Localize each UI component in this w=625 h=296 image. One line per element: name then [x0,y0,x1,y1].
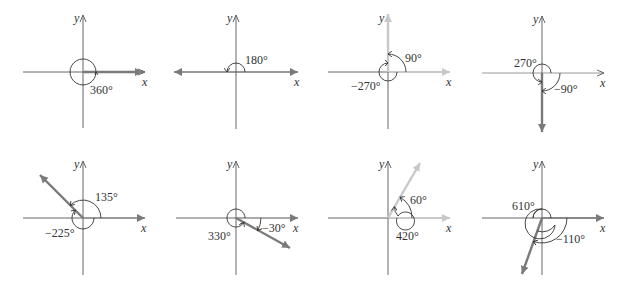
angle-label-negative: −30° [262,221,286,235]
angle-label: 270° [514,56,537,70]
angle-label: 90° [405,51,422,65]
angle-label: 180° [245,53,268,67]
angle-label: 60° [410,193,427,207]
y-label: y [378,157,385,171]
panel-180: y x 180° [174,11,300,129]
y-label: y [226,157,233,171]
y-label: y [226,11,233,25]
x-label: x [292,221,299,235]
angle-label-negative: −90° [554,82,578,96]
angle-label-negative: −225° [45,226,75,240]
terminal-side [40,175,83,218]
panel-330: 330° −30° y x [176,157,299,275]
x-label: x [141,75,148,89]
angle-arc-90 [388,54,406,72]
angle-label-negative: −110° [556,232,585,246]
x-label: x [599,221,606,235]
angle-label-negative: −270° [351,79,381,93]
angle-label: 135° [95,190,118,204]
panel-60: y x 60° 420° [328,157,452,275]
panel-90: y x 90° −270° [328,11,452,129]
x-label: x [445,75,452,89]
angle-label: 330° [208,229,231,243]
y-label: y [532,157,539,171]
y-label: y [378,11,385,25]
coterminal-angles-figure: y x 360° y x 180° y x 90° −270° y x 270° [0,0,625,296]
y-label: y [532,12,539,26]
terminal-side [388,163,420,218]
x-label: x [140,221,147,235]
x-label: x [599,76,606,90]
y-label: y [73,11,80,25]
angle-label: 360° [90,83,113,97]
panel-135: y x 135° −225° [23,157,147,275]
panel-270: y x 270° −90° [482,12,606,132]
panel-360: y x 360° [23,11,148,128]
y-label: y [73,157,80,171]
angle-label: 610° [512,199,535,213]
x-label: x [445,221,452,235]
x-label: x [293,75,300,89]
angle-arc-neg30 [258,218,261,231]
angle-label-positive: 420° [396,229,419,243]
panel-610: y x 610° −110° [482,157,606,275]
